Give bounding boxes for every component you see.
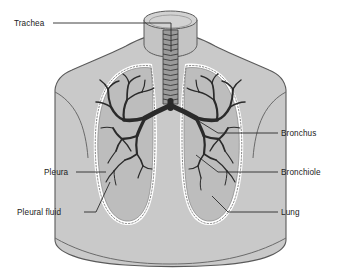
- label-pleural-fluid: Pleural fluid: [17, 208, 61, 217]
- neck-cut-opening: [144, 11, 197, 29]
- label-bronchiole: Bronchiole: [281, 168, 321, 177]
- label-trachea: Trachea: [14, 19, 45, 28]
- trachea-tube: [163, 30, 178, 104]
- label-bronchus: Bronchus: [281, 129, 316, 138]
- label-pleura: Pleura: [44, 168, 69, 177]
- label-lung: Lung: [281, 208, 300, 217]
- trachea-group: [163, 30, 178, 104]
- anatomy-illustration: Trachea Bronchus Bronchiole Lung Pleura …: [0, 0, 340, 278]
- respiratory-diagram-figure: Trachea Bronchus Bronchiole Lung Pleura …: [0, 0, 340, 278]
